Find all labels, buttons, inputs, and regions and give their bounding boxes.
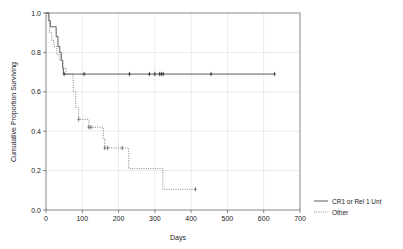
survival-chart: 01002003004005006007000.00.20.40.60.81.0… [0,0,403,249]
chart-legend[interactable]: CR1 or Rel 1 UntOther [314,198,382,216]
x-tick-label: 500 [222,215,234,222]
x-tick-label: 100 [76,215,88,222]
series-lines [46,13,275,189]
y-tick-label: 0.8 [31,49,41,56]
x-tick-label: 600 [258,215,270,222]
y-tick-label: 0.2 [31,167,41,174]
axis-tick-labels: 01002003004005006007000.00.20.40.60.81.0 [31,10,306,223]
y-tick-label: 1.0 [31,10,41,17]
plot-frame [46,13,300,210]
grid-lines [46,13,300,210]
series-line-0 [46,13,275,74]
x-tick-label: 0 [44,215,48,222]
x-axis-title: Days [170,234,186,242]
x-tick-label: 400 [185,215,197,222]
legend-label-0[interactable]: CR1 or Rel 1 Unt [332,198,382,205]
x-tick-label: 200 [113,215,125,222]
y-tick-label: 0.4 [31,128,41,135]
x-tick-label: 700 [294,215,306,222]
y-tick-label: 0.6 [31,88,41,95]
x-tick-label: 300 [149,215,161,222]
y-axis-title: Cumulative Proportion Surviving [10,62,18,162]
y-tick-label: 0.0 [31,207,41,214]
censor-marks [63,72,276,192]
legend-label-1[interactable]: Other [332,209,349,216]
axis-ticks [43,13,300,213]
chart-container: 01002003004005006007000.00.20.40.60.81.0… [0,0,403,249]
series-line-1 [46,13,195,189]
